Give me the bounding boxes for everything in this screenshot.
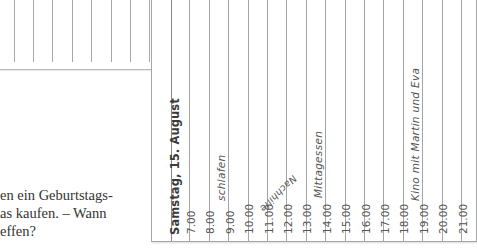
- hour-row: 9.00: [210, 0, 229, 241]
- hour-row: 17.00: [365, 0, 384, 241]
- diary-rule: [91, 0, 92, 62]
- body-line: effen?: [0, 222, 113, 240]
- diary-rule: [72, 0, 73, 62]
- entry-schlafen: schlafen: [215, 155, 227, 201]
- body-line: en ein Geburtstags-: [0, 186, 113, 204]
- hour-row: 18.00: [384, 0, 403, 241]
- hour-row: 21.00: [443, 0, 462, 241]
- diary-rule: [149, 0, 150, 62]
- hour-row: 7.00: [171, 0, 190, 241]
- diary-rule: [130, 0, 131, 62]
- hour-row: 10.00: [229, 0, 248, 241]
- entry-kino: Kino mit Martin und Eva: [409, 68, 421, 201]
- hour-row: 13.00: [287, 0, 306, 241]
- diary-rule: [33, 0, 34, 62]
- diary-rule: [14, 0, 15, 62]
- left-diary-page: [0, 0, 151, 70]
- hour-row: 8.00: [190, 0, 209, 241]
- hour-row: 14.00: [307, 0, 326, 241]
- hour-label: 21.00: [457, 204, 469, 234]
- hour-row: 16.00: [346, 0, 365, 241]
- hour-row: 15.00: [326, 0, 345, 241]
- entry-mittagessen: Mittagessen: [312, 131, 324, 198]
- day-heading-column: Samstag, 15. August: [152, 0, 172, 241]
- hour-row: 20.00: [423, 0, 442, 241]
- calendar-day-card: Samstag, 15. August 7.00 8.00 9.00 10.00…: [151, 0, 477, 242]
- diary-rule: [111, 0, 112, 62]
- diary-rule: [52, 0, 53, 62]
- body-line: as kaufen. – Wann: [0, 204, 113, 222]
- body-text: en ein Geburtstags- as kaufen. – Wann ef…: [0, 186, 113, 240]
